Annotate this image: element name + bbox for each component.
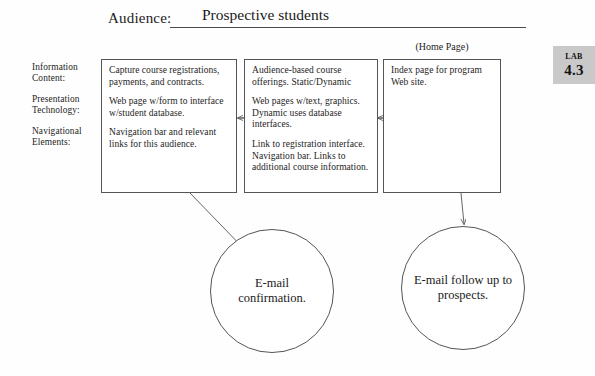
lab-tab: Lab 4.3 [553, 46, 595, 84]
audience-header: Audience: Prospective students [108, 6, 528, 32]
box-presentation-paragraph-1: Audience-based course offerings. Static/… [252, 65, 370, 88]
audience-label: Audience: [108, 10, 171, 27]
box-presentation-paragraph-2: Web pages w/text, graphics. Dynamic uses… [252, 96, 370, 131]
box-home-page-paragraph-1: Index page for program Web site. [391, 65, 493, 88]
box-presentation-technology: Audience-based course offerings. Static/… [244, 59, 378, 193]
audience-underline [170, 27, 526, 28]
box-home-page: Index page for program Web site. [383, 59, 501, 193]
box-presentation-paragraph-3: Link to registration interface. Navigati… [252, 139, 370, 174]
lab-tab-number: 4.3 [553, 62, 595, 79]
lab-tab-word: Lab [553, 48, 595, 62]
row-label-navigational-elements: Navigational Elements: [32, 126, 104, 148]
circle-email-confirmation-label: E-mail confirmation. [211, 276, 333, 306]
box-information-paragraph-2: Web page w/form to interface w/student d… [109, 96, 229, 119]
diagram-page: Audience: Prospective students Informati… [0, 0, 595, 376]
row-label-presentation-technology: Presentation Technology: [32, 94, 104, 116]
home-page-caption: (Home Page) [383, 41, 501, 52]
row-label-information-content: Information Content: [32, 62, 104, 84]
box-information-content: Capture course registrations, payments, … [101, 59, 237, 193]
circle-email-confirmation: E-mail confirmation. [210, 229, 334, 353]
audience-value: Prospective students [202, 6, 329, 24]
circle-email-followup-label: E-mail follow up to prospects. [402, 273, 524, 303]
circle-email-followup: E-mail follow up to prospects. [401, 226, 525, 350]
box-information-paragraph-3: Navigation bar and relevant links for th… [109, 127, 229, 150]
box-information-paragraph-1: Capture course registrations, payments, … [109, 65, 229, 88]
